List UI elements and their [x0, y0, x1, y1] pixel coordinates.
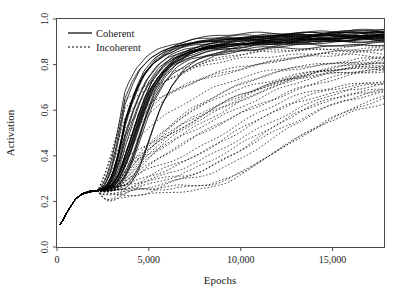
incoherent-trajectory	[60, 90, 384, 225]
coherent-trajectory	[60, 41, 384, 224]
y-tick-label: 1.0	[39, 13, 50, 26]
coherent-trajectory	[60, 42, 384, 224]
y-axis-ticks: 0.00.20.40.60.81.0	[39, 13, 57, 254]
coherent-trajectory	[60, 34, 384, 224]
coherent-trajectory	[60, 36, 384, 224]
incoherent-trajectory	[60, 62, 384, 224]
coherent-trajectory	[60, 32, 384, 224]
incoherent-trajectory	[60, 89, 384, 224]
chart-legend: CoherentIncoherent	[68, 28, 141, 53]
coherent-trajectory	[60, 34, 384, 224]
incoherent-curves	[60, 46, 384, 225]
coherent-trajectory	[60, 34, 384, 225]
y-axis-title: Activation	[4, 109, 16, 156]
incoherent-trajectory	[60, 69, 384, 225]
y-tick-label: 0.4	[39, 150, 50, 163]
coherent-trajectory	[60, 37, 384, 224]
legend-label: Incoherent	[96, 42, 141, 53]
coherent-curves	[60, 29, 384, 224]
x-tick-label: 5,000	[138, 254, 161, 265]
coherent-trajectory	[60, 37, 384, 224]
coherent-trajectory	[60, 37, 384, 224]
incoherent-trajectory	[60, 69, 384, 224]
incoherent-trajectory	[60, 50, 384, 224]
x-axis-ticks: 05,00010,00015,000	[55, 247, 347, 265]
incoherent-trajectory	[60, 104, 384, 224]
coherent-trajectory	[60, 32, 384, 224]
coherent-trajectory	[60, 30, 384, 225]
coherent-trajectory	[60, 37, 384, 224]
incoherent-trajectory	[60, 92, 384, 224]
coherent-trajectory	[60, 44, 384, 224]
coherent-trajectory	[60, 31, 384, 224]
y-tick-label: 0.6	[39, 104, 50, 117]
incoherent-trajectory	[60, 83, 384, 224]
incoherent-trajectory	[60, 67, 384, 224]
x-tick-label: 0	[55, 254, 60, 265]
coherent-trajectory	[60, 33, 384, 224]
incoherent-trajectory	[60, 52, 384, 224]
coherent-trajectory	[60, 36, 384, 224]
incoherent-trajectory	[60, 91, 384, 224]
x-tick-label: 10,000	[227, 254, 255, 265]
coherent-trajectory	[60, 39, 384, 224]
activation-vs-epochs-chart: 05,00010,00015,000 0.00.20.40.60.81.0 Co…	[0, 0, 400, 301]
coherent-trajectory	[60, 31, 384, 225]
x-tick-label: 15,000	[319, 254, 347, 265]
incoherent-trajectory	[60, 48, 384, 224]
figure-container: 05,00010,00015,000 0.00.20.40.60.81.0 Co…	[0, 0, 400, 301]
coherent-trajectory	[60, 38, 384, 225]
x-axis-title: Epochs	[204, 274, 236, 286]
coherent-trajectory	[60, 32, 384, 224]
coherent-trajectory	[60, 29, 384, 224]
legend-label: Coherent	[96, 28, 135, 39]
y-tick-label: 0.2	[39, 195, 50, 208]
incoherent-trajectory	[60, 50, 384, 225]
y-tick-label: 0.8	[39, 58, 50, 71]
coherent-trajectory	[60, 32, 384, 224]
coherent-trajectory	[60, 35, 384, 224]
y-tick-label: 0.0	[39, 241, 50, 254]
incoherent-trajectory	[60, 84, 384, 224]
